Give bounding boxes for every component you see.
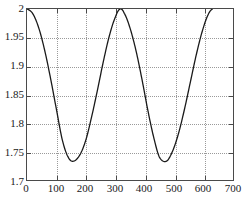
y-tick-label: 1.8 — [0, 118, 24, 129]
x-tick-label: 200 — [70, 183, 100, 194]
y-tick-label: 1.85 — [0, 89, 24, 100]
y-tick-label: 1.75 — [0, 147, 24, 158]
chart-figure: 2 1.95 1.9 1.85 1.8 1.75 1.7 0 100 200 3… — [0, 0, 242, 204]
x-tick-label: 300 — [100, 183, 130, 194]
data-series-line — [27, 9, 233, 180]
x-tick-label: 600 — [188, 183, 218, 194]
y-tick-label: 1.95 — [0, 31, 24, 42]
y-tick-label: 1.9 — [0, 60, 24, 71]
x-tick-label: 500 — [159, 183, 189, 194]
x-tick-label: 700 — [218, 183, 242, 194]
x-tick-label: 0 — [11, 183, 41, 194]
plot-area — [26, 8, 234, 181]
x-tick-label: 400 — [129, 183, 159, 194]
y-tick-label: 2 — [0, 3, 24, 14]
x-tick-label: 100 — [41, 183, 71, 194]
